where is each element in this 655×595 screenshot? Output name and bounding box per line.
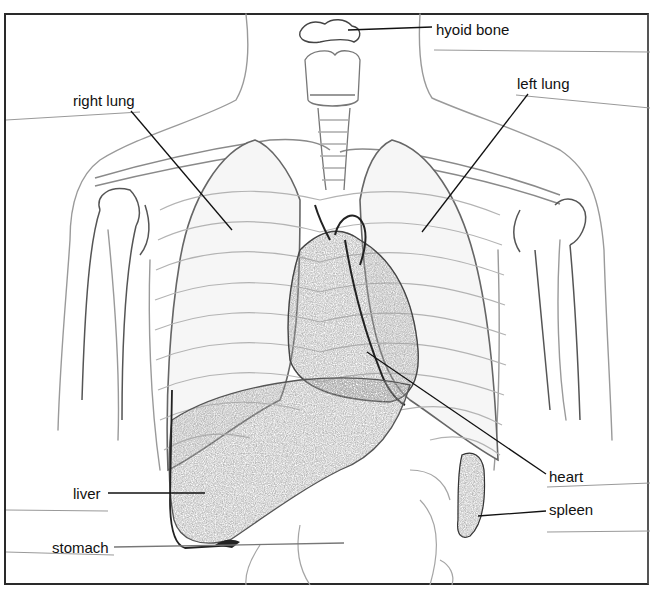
label-spleen: spleen bbox=[549, 502, 593, 517]
label-heart: heart bbox=[549, 469, 583, 484]
label-right-lung: right lung bbox=[73, 93, 135, 108]
hyoid-bone-icon bbox=[300, 20, 360, 43]
leader-spleen bbox=[478, 511, 546, 516]
larynx-icon bbox=[305, 51, 360, 190]
label-left-lung: left lung bbox=[517, 76, 570, 91]
clavicle-icon bbox=[95, 139, 560, 204]
label-liver: liver bbox=[73, 486, 101, 501]
label-hyoid-bone: hyoid bone bbox=[436, 22, 509, 37]
spleen-shape bbox=[458, 453, 485, 537]
label-stomach: stomach bbox=[52, 540, 109, 555]
